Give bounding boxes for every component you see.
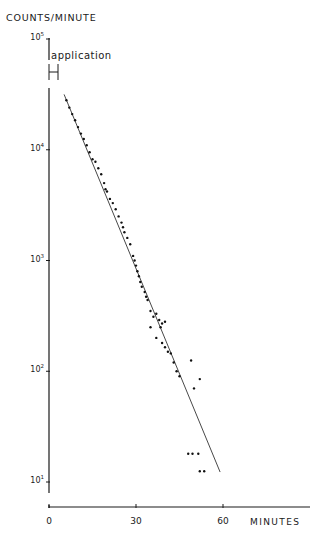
data-point (178, 375, 180, 377)
data-point (155, 337, 157, 339)
data-point (94, 161, 96, 163)
data-point (122, 226, 124, 228)
data-point (115, 208, 117, 210)
data-point (80, 132, 82, 134)
data-point (74, 119, 76, 121)
data-point (161, 342, 163, 344)
y-tick-label: 101 (14, 474, 44, 485)
data-point (152, 316, 154, 318)
data-point (133, 259, 135, 261)
data-point (167, 351, 169, 353)
x-axis-title: MINUTES (250, 517, 300, 527)
axes (49, 38, 310, 508)
data-point (138, 275, 140, 277)
data-point (126, 237, 128, 239)
data-point (193, 387, 195, 389)
data-point (136, 270, 138, 272)
data-point (106, 190, 108, 192)
data-point (109, 198, 111, 200)
data-point (159, 326, 161, 328)
data-points (65, 99, 205, 472)
data-point (86, 144, 88, 146)
data-point (146, 299, 148, 301)
data-point (170, 352, 172, 354)
data-point (187, 453, 189, 455)
data-point (173, 361, 175, 363)
data-point (68, 106, 70, 108)
data-point (158, 319, 160, 321)
data-point (88, 151, 90, 153)
data-point (97, 167, 99, 169)
data-point (164, 321, 166, 323)
data-point (123, 231, 125, 233)
data-point (145, 296, 147, 298)
data-point (161, 322, 163, 324)
data-point (100, 173, 102, 175)
data-point (190, 359, 192, 361)
y-tick-label: 104 (14, 142, 44, 153)
data-point (91, 158, 93, 160)
data-point (103, 182, 105, 184)
fit-line (64, 94, 220, 472)
data-point (144, 291, 146, 293)
data-point (104, 188, 106, 190)
data-point (191, 453, 193, 455)
data-point (83, 138, 85, 140)
application-annotation: application (51, 50, 112, 61)
x-tick-label: 30 (124, 516, 148, 526)
y-tick-label: 102 (14, 363, 44, 374)
x-tick-label: 0 (37, 516, 61, 526)
y-tick-label: 103 (14, 253, 44, 264)
data-point (112, 202, 114, 204)
data-point (164, 346, 166, 348)
data-point (77, 126, 79, 128)
x-tick-label: 60 (211, 516, 235, 526)
data-point (71, 113, 73, 115)
y-tick-label: 105 (14, 31, 44, 42)
data-point (197, 453, 199, 455)
y-axis-title: COUNTS/MINUTE (6, 12, 96, 23)
data-point (149, 326, 151, 328)
data-point (199, 378, 201, 380)
data-point (199, 470, 201, 472)
data-point (129, 243, 131, 245)
data-point (203, 470, 205, 472)
data-point (155, 313, 157, 315)
chart-plot (0, 0, 318, 549)
data-point (135, 264, 137, 266)
data-point (120, 221, 122, 223)
data-point (139, 281, 141, 283)
data-point (149, 310, 151, 312)
data-point (175, 370, 177, 372)
application-bracket (49, 64, 58, 80)
data-point (141, 286, 143, 288)
data-point (132, 255, 134, 257)
data-point (65, 99, 67, 101)
data-point (117, 215, 119, 217)
